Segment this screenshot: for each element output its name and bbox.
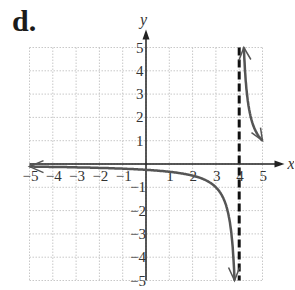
svg-text:−4: −4 <box>130 249 146 265</box>
svg-text:1: 1 <box>136 133 144 149</box>
svg-text:y: y <box>138 11 148 29</box>
svg-text:−3: −3 <box>69 168 85 184</box>
graph: xy −5−4−3−2−112345−5−4−3−2−112345 <box>0 0 294 290</box>
svg-text:3: 3 <box>213 168 221 184</box>
svg-text:−5: −5 <box>23 168 39 184</box>
svg-text:5: 5 <box>260 168 268 184</box>
svg-text:−3: −3 <box>130 226 146 242</box>
axes: xy <box>30 11 295 281</box>
svg-text:3: 3 <box>136 86 144 102</box>
svg-text:−2: −2 <box>130 203 146 219</box>
svg-text:x: x <box>287 155 295 172</box>
svg-text:−4: −4 <box>46 168 62 184</box>
svg-text:4: 4 <box>136 63 144 79</box>
svg-text:−1: −1 <box>130 179 146 195</box>
svg-text:−2: −2 <box>92 168 108 184</box>
svg-text:−5: −5 <box>130 273 146 289</box>
svg-text:2: 2 <box>136 109 144 125</box>
svg-text:5: 5 <box>136 40 144 56</box>
